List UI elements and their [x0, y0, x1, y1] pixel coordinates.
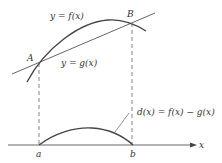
curve-f	[27, 20, 146, 82]
label-d: d(x) = f(x) − g(x)	[137, 107, 215, 117]
label-f: y = f(x)	[49, 11, 84, 21]
label-b: b	[130, 149, 136, 159]
label-B: B	[126, 9, 134, 19]
leader-line	[115, 113, 129, 132]
diagram: y = f(x) B A y = g(x) d(x) = f(x) − g(x)…	[0, 0, 222, 163]
label-g: y = g(x)	[60, 58, 98, 68]
curve-d	[39, 128, 133, 145]
x-axis-arrow-icon	[190, 143, 197, 148]
label-A: A	[26, 53, 34, 63]
label-x: x	[199, 140, 204, 150]
label-a: a	[36, 149, 41, 159]
